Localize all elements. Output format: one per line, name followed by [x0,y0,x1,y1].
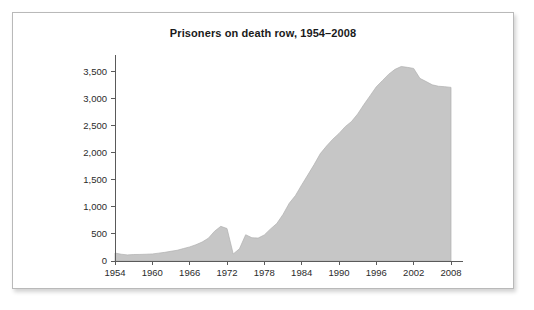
y-tick-label: 500 [91,228,107,239]
x-tick-label: 2002 [403,267,424,278]
y-tick-label: 2,000 [83,147,107,158]
x-tick-label: 1972 [216,267,237,278]
y-tick-label: 1,500 [83,174,107,185]
y-tick-label: 3,000 [83,93,107,104]
x-tick-label: 1996 [366,267,387,278]
x-axis-ticks: 1954196019661972197819841990199620022008 [104,261,461,278]
x-tick-label: 1978 [254,267,275,278]
x-tick-label: 1990 [328,267,349,278]
x-tick-label: 1966 [179,267,200,278]
chart-plot-area: 05001,0001,5002,0002,5003,0003,500 19541… [13,13,515,290]
y-tick-label: 0 [102,255,107,266]
figure-card: Prisoners on death row, 1954–2008 05001,… [12,12,514,289]
area-chart-svg: 05001,0001,5002,0002,5003,0003,500 19541… [13,13,515,290]
y-tick-label: 1,000 [83,201,107,212]
x-tick-label: 1954 [104,267,125,278]
area-series [115,67,451,262]
x-tick-label: 1960 [142,267,163,278]
y-axis-ticks: 05001,0001,5002,0002,5003,0003,500 [83,66,115,266]
x-tick-label: 2008 [440,267,461,278]
area-series-path [115,67,451,262]
y-tick-label: 2,500 [83,120,107,131]
x-tick-label: 1984 [291,267,312,278]
y-tick-label: 3,500 [83,66,107,77]
